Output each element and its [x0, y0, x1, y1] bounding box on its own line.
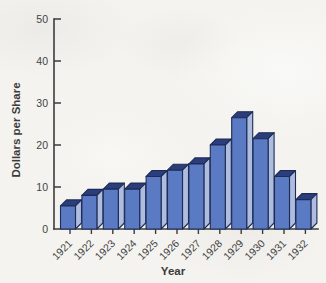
- bar-1932: [296, 194, 317, 229]
- bar-1923: [103, 183, 124, 229]
- x-axis-tick-label: 1925: [135, 237, 160, 262]
- bar-front-face: [296, 200, 311, 229]
- x-axis-tick-label: 1921: [49, 237, 74, 262]
- y-axis-tick-label: 40: [36, 55, 48, 67]
- bar-front-face: [253, 139, 268, 229]
- bar-1931: [275, 171, 296, 230]
- bar-side-face: [76, 200, 82, 229]
- bar-front-face: [146, 177, 161, 230]
- bar-side-face: [268, 133, 274, 229]
- bar-front-face: [232, 118, 247, 229]
- bar-front-face: [103, 189, 118, 229]
- bar-front-face: [210, 145, 225, 229]
- bar-1930: [253, 133, 274, 229]
- x-axis-tick-label: 1930: [242, 237, 267, 262]
- bar-side-face: [97, 189, 103, 229]
- bar-1925: [146, 171, 167, 230]
- y-axis-tick-label: 10: [36, 181, 48, 193]
- bar-front-face: [189, 164, 204, 229]
- bar-side-face: [118, 183, 124, 229]
- y-axis-tick-label: 50: [36, 13, 48, 25]
- x-axis-tick-label: 1932: [285, 237, 310, 262]
- x-axis-tick-label: 1922: [71, 237, 96, 262]
- bar-1929: [232, 112, 253, 229]
- bar-front-face: [125, 189, 140, 229]
- chart-canvas: 0102030405019211922192319241925192619271…: [0, 0, 326, 283]
- bar-1922: [82, 189, 103, 229]
- bar-1924: [125, 183, 146, 229]
- bar-side-face: [161, 171, 167, 230]
- bar-1927: [189, 158, 210, 229]
- bar-side-face: [290, 171, 296, 230]
- bar-front-face: [275, 177, 290, 230]
- bar-front-face: [82, 195, 97, 229]
- bar-1921: [61, 200, 82, 229]
- bar-1926: [168, 164, 189, 229]
- y-axis-tick-label: 30: [36, 97, 48, 109]
- bar-front-face: [61, 206, 76, 229]
- x-axis-tick-label: 1931: [263, 237, 288, 262]
- x-axis-title: Year: [161, 265, 185, 277]
- stock-price-bar-chart-figure: 0102030405019211922192319241925192619271…: [0, 0, 326, 283]
- x-axis-tick-label: 1923: [92, 237, 117, 262]
- bar-side-face: [247, 112, 253, 229]
- bar-side-face: [204, 158, 210, 229]
- bar-side-face: [183, 164, 189, 229]
- bar-front-face: [168, 170, 183, 229]
- bar-side-face: [140, 183, 146, 229]
- x-axis-tick-label: 1927: [178, 237, 203, 262]
- bar-1928: [210, 139, 231, 229]
- y-axis-title: Dollars per Share: [10, 82, 22, 177]
- x-axis-tick-label: 1926: [156, 237, 181, 262]
- y-axis-tick-label: 0: [42, 223, 48, 235]
- bar-side-face: [225, 139, 231, 229]
- x-axis-tick-label: 1928: [199, 237, 224, 262]
- y-axis-tick-label: 20: [36, 139, 48, 151]
- bar-side-face: [311, 194, 317, 229]
- x-axis-tick-label: 1924: [114, 237, 139, 262]
- x-axis-tick-label: 1929: [221, 237, 246, 262]
